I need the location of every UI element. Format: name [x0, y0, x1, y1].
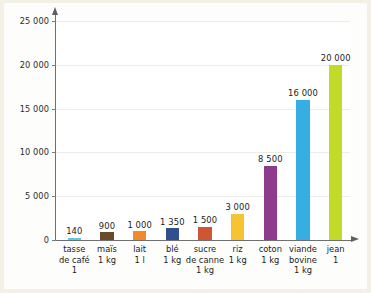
y-axis-tick-label: 25 000: [20, 16, 49, 26]
gridline: [56, 65, 350, 66]
chart-page: 05 00010 00015 00020 00025 000 1409001 0…: [0, 0, 371, 293]
plot-area: 1409001 0001 3501 5003 0008 50016 00020 …: [56, 21, 350, 240]
x-axis-arrow-icon: [351, 236, 359, 242]
y-axis-tick-label: 15 000: [20, 104, 49, 114]
category-label-line: 1: [306, 255, 366, 266]
bar: [166, 228, 180, 240]
bar: [198, 227, 212, 240]
category-label: jean1: [306, 244, 366, 265]
bar: [296, 100, 310, 240]
category-label-line: 1 kg: [273, 265, 333, 276]
y-axis-tick-label: 5 000: [25, 191, 49, 201]
category-label-line: jean: [306, 244, 366, 255]
chart-card: 05 00010 00015 00020 00025 000 1409001 0…: [4, 3, 367, 289]
category-label-line: 1: [44, 265, 104, 276]
y-axis-tick: [52, 65, 56, 66]
y-axis-tick: [52, 152, 56, 153]
bar-value-label: 1 500: [173, 215, 237, 225]
bar-value-label: 3 000: [206, 202, 270, 212]
bar-value-label: 8 500: [238, 154, 302, 164]
y-axis-tick: [52, 240, 56, 241]
y-axis-tick-label: 10 000: [20, 147, 49, 157]
bar: [329, 65, 343, 240]
bar: [264, 166, 278, 240]
bar-value-label: 16 000: [271, 88, 335, 98]
y-axis-tick: [52, 21, 56, 22]
y-axis-line: [55, 13, 56, 241]
x-axis-line: [55, 240, 353, 241]
bar: [231, 214, 245, 240]
gridline: [56, 21, 350, 22]
y-axis-arrow-icon: [52, 7, 58, 15]
category-label-line: 1 kg: [175, 265, 235, 276]
bar-value-label: 20 000: [304, 53, 368, 63]
y-axis-tick: [52, 109, 56, 110]
x-axis-category-labels: tassede café1maïs1 kglait1 lblé1 kgsucre…: [4, 244, 371, 293]
y-axis-tick-label: 20 000: [20, 60, 49, 70]
y-axis-tick: [52, 196, 56, 197]
